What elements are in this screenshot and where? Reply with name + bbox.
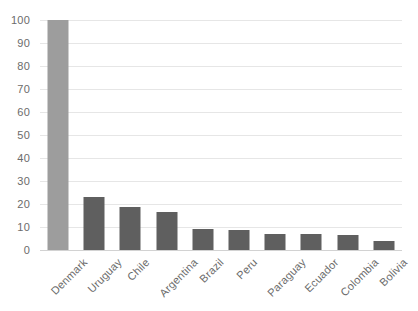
y-axis-tick-label: 0 [24,244,30,256]
bar[interactable] [120,207,141,250]
bar-slot [293,20,329,250]
y-axis-tick-label: 90 [17,37,30,49]
x-label-slot: Peru [221,250,257,311]
y-axis-tick-label: 10 [17,221,30,233]
bar-slot [149,20,185,250]
x-label-slot: Bolivia [366,250,402,311]
bar-series [40,20,402,250]
bar[interactable] [265,234,286,250]
x-label-slot: Uruguay [76,250,112,311]
y-axis: 0102030405060708090100 [0,20,36,250]
bar-slot [112,20,148,250]
bar-slot [76,20,112,250]
bar[interactable] [301,234,322,250]
bar[interactable] [192,229,213,250]
x-axis: DenmarkUruguayChileArgentinaBrazilPeruPa… [40,250,402,311]
bar[interactable] [84,197,105,250]
bar-slot [257,20,293,250]
y-axis-tick-label: 30 [17,175,30,187]
y-axis-tick-label: 70 [17,83,30,95]
bar-slot [185,20,221,250]
bar[interactable] [48,20,69,250]
bar-slot [221,20,257,250]
x-label-slot: Argentina [149,250,185,311]
y-axis-tick-label: 60 [17,106,30,118]
y-axis-tick-label: 40 [17,152,30,164]
y-axis-tick-label: 80 [17,60,30,72]
x-label-slot: Chile [112,250,148,311]
x-axis-tick-label: Bolivia [377,256,409,288]
bar-slot [366,20,402,250]
bar[interactable] [337,235,358,250]
bar[interactable] [229,230,250,250]
x-label-slot: Colombia [330,250,366,311]
bar-slot [330,20,366,250]
x-label-slot: Brazil [185,250,221,311]
y-axis-tick-label: 100 [11,14,30,26]
bar-slot [40,20,76,250]
bar[interactable] [373,241,394,250]
bar-chart: 0102030405060708090100 DenmarkUruguayChi… [0,0,418,311]
y-axis-tick-label: 50 [17,129,30,141]
x-label-slot: Denmark [40,250,76,311]
x-label-slot: Paraguay [257,250,293,311]
x-label-slot: Ecuador [293,250,329,311]
x-axis-tick-label: Peru [234,256,259,281]
bar[interactable] [156,212,177,250]
y-axis-tick-label: 20 [17,198,30,210]
